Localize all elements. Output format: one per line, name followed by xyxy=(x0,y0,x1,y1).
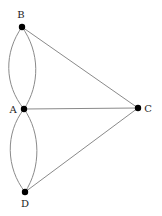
edge-a-c xyxy=(24,108,138,109)
edge-a-d-right xyxy=(24,109,37,192)
label-d: D xyxy=(21,198,29,209)
graph-diagram: B A C D xyxy=(0,0,162,216)
edges xyxy=(9,27,138,192)
edge-d-c xyxy=(25,108,138,192)
label-c: C xyxy=(144,103,152,114)
edge-a-d-left xyxy=(10,109,25,192)
edge-b-c xyxy=(22,27,138,108)
edge-a-b-right xyxy=(22,27,36,109)
label-a: A xyxy=(8,104,17,115)
node-a xyxy=(21,106,27,112)
node-b xyxy=(19,24,25,30)
nodes xyxy=(19,24,141,195)
label-b: B xyxy=(17,9,24,20)
node-c xyxy=(135,105,141,111)
edge-a-b-left xyxy=(9,27,24,109)
node-d xyxy=(22,189,28,195)
